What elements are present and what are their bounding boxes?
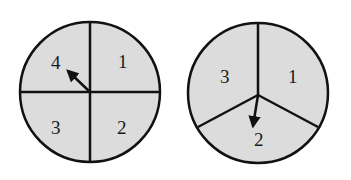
section-label-2: 2: [117, 117, 127, 138]
section-label-3: 3: [51, 117, 61, 138]
three-section-spinner: 1 2 3: [188, 23, 328, 163]
section-label-2: 2: [254, 129, 264, 150]
section-label-1: 1: [288, 66, 298, 87]
section-label-4: 4: [51, 52, 61, 73]
spinners-diagram: 1 2 3 4 1 2 3: [0, 0, 351, 180]
four-section-spinner: 1 2 3 4: [20, 22, 160, 162]
section-label-1: 1: [118, 51, 128, 72]
section-label-3: 3: [220, 66, 230, 87]
